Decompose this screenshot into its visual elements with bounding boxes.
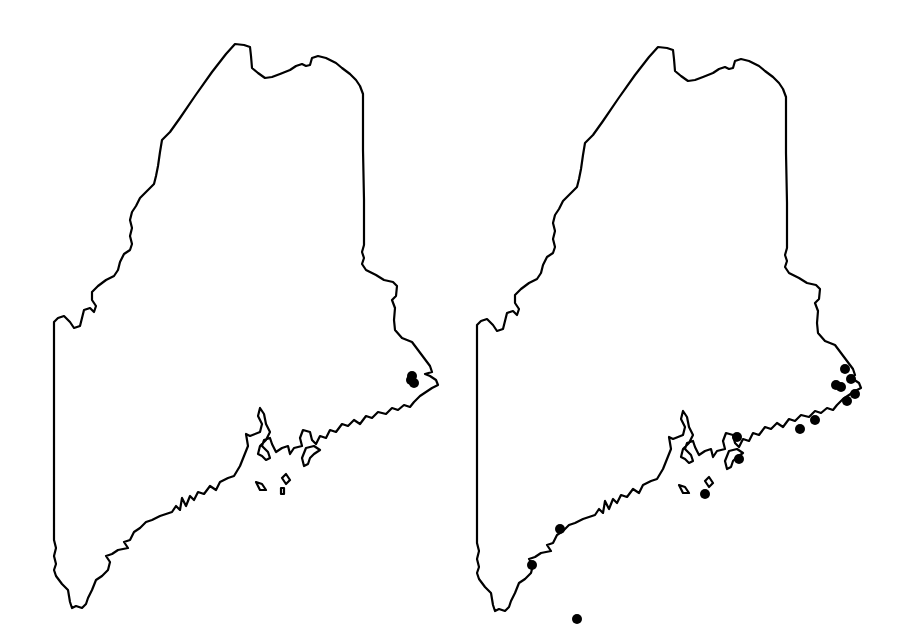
occurrence-dots-right: [527, 364, 860, 624]
occurrence-dot: [846, 374, 856, 384]
occurrence-dot: [732, 432, 742, 442]
maine-outline-right: [477, 47, 861, 611]
occurrence-dot: [555, 524, 565, 534]
occurrence-dot: [840, 364, 850, 374]
occurrence-dot: [700, 489, 710, 499]
occurrence-dot: [406, 375, 416, 385]
occurrence-dot: [810, 415, 820, 425]
occurrence-dots-left: [406, 371, 419, 388]
maine-outline-left: [54, 44, 438, 608]
occurrence-dot: [572, 614, 582, 624]
occurrence-dot: [795, 424, 805, 434]
occurrence-dot: [850, 389, 860, 399]
maine-map-right: [477, 47, 861, 611]
occurrence-dot: [836, 382, 846, 392]
maine-map-left: [54, 44, 438, 608]
occurrence-dot: [527, 560, 537, 570]
occurrence-dot: [842, 396, 852, 406]
maine-maps-figure: [0, 0, 908, 639]
occurrence-dot: [734, 454, 744, 464]
